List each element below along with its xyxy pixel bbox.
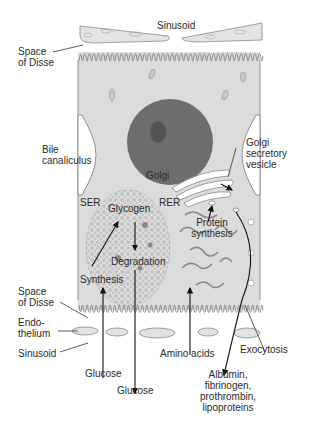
label-golgi: Golgi <box>146 170 169 181</box>
label-glycogen: Glycogen <box>108 203 150 214</box>
label-rer: RER <box>159 197 180 208</box>
label-bile-1: Bile <box>42 144 59 155</box>
label-sinusoid-bottom: Sinusoid <box>18 348 56 359</box>
label-sinusoid-top: Sinusoid <box>157 20 195 31</box>
label-ser: SER <box>80 197 101 208</box>
label-glucose-in: Glucose <box>85 368 122 379</box>
label-golgi-vesicle-2: secretory <box>246 148 287 159</box>
label-degradation: Degradation <box>111 256 165 267</box>
label-bile-2: canaliculus <box>42 155 91 166</box>
label-protein-1: Protein <box>186 217 238 228</box>
label-glucose-out: Glucose <box>117 385 154 396</box>
label-space-of-disse-top-1: Space <box>18 46 46 57</box>
label-amino-acids: Amino acids <box>160 348 214 359</box>
label-exocytosis: Exocytosis <box>240 344 288 355</box>
nucleus <box>127 99 213 185</box>
label-space-of-disse-top-2: of Disse <box>18 57 54 68</box>
label-protein-2: synthesis <box>186 228 238 239</box>
label-space-of-disse-bottom-2: of Disse <box>18 297 54 308</box>
label-space-of-disse-bottom-1: Space <box>18 286 46 297</box>
label-synthesis: Synthesis <box>80 274 123 285</box>
label-endothelium-2: thelium <box>18 328 50 339</box>
label-secreted-4: lipoproteins <box>194 402 262 413</box>
label-secreted-3: prothrombin, <box>194 391 262 402</box>
bottom-endothelium <box>72 327 260 338</box>
label-golgi-vesicle-1: Golgi <box>246 137 269 148</box>
label-golgi-vesicle-3: vesicle <box>246 159 277 170</box>
label-secreted-2: fibrinogen, <box>194 380 262 391</box>
label-endothelium-1: Endo- <box>18 317 45 328</box>
label-secreted-1: Albumin, <box>194 369 262 380</box>
